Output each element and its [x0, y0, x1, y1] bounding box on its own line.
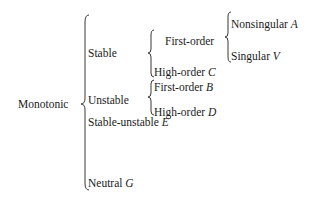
node-symbol: A	[291, 18, 298, 30]
node-label: First-order	[154, 81, 203, 93]
node-nonsingular: Nonsingular A	[231, 17, 298, 31]
node-label: Stable	[88, 47, 117, 59]
node-label: Unstable	[88, 94, 129, 106]
node-label: High-order	[154, 66, 205, 78]
node-symbol: V	[273, 50, 280, 62]
node-stable-high-order: High-order C	[154, 65, 216, 79]
node-symbol: G	[125, 177, 133, 189]
node-label: Singular	[231, 50, 270, 62]
node-unstable-first-order: First-order B	[154, 80, 213, 94]
node-label: High-order	[154, 106, 205, 118]
classification-diagram: Monotonic Stable Unstable Stable-unstabl…	[0, 0, 330, 203]
node-singular: Singular V	[231, 49, 280, 63]
node-stable: Stable	[88, 46, 117, 60]
node-label: Monotonic	[18, 98, 68, 110]
node-label: Stable-unstable	[88, 116, 159, 128]
node-label: First-order	[165, 35, 214, 47]
node-neutral: Neutral G	[88, 176, 134, 190]
node-symbol: D	[208, 106, 216, 118]
node-stable-first-order: First-order	[165, 34, 214, 48]
node-unstable: Unstable	[88, 93, 129, 107]
node-monotonic: Monotonic	[18, 97, 68, 111]
node-label: Neutral	[88, 177, 122, 189]
node-symbol: C	[208, 66, 216, 78]
node-unstable-high-order: High-order D	[154, 105, 216, 119]
node-symbol: B	[206, 81, 213, 93]
node-label: Nonsingular	[231, 18, 288, 30]
